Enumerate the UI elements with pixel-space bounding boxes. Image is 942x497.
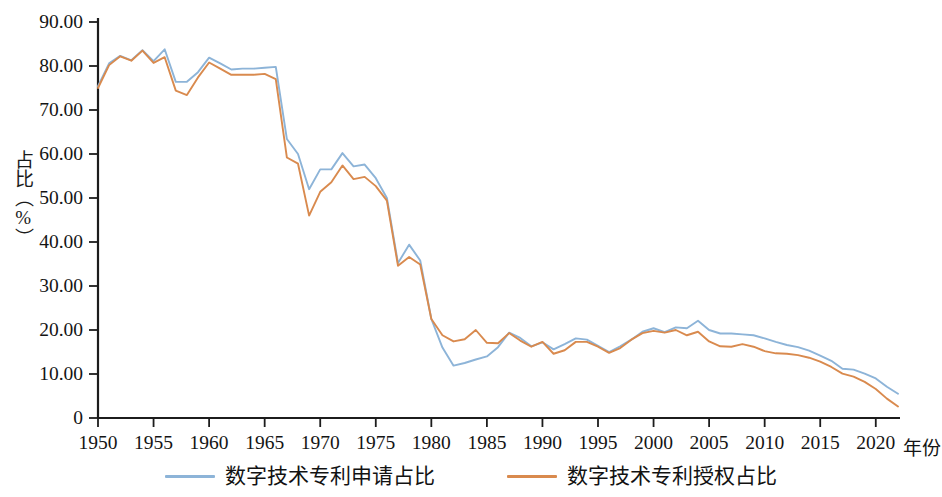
x-tick-label: 2000 bbox=[626, 433, 682, 453]
x-tick-label: 1995 bbox=[570, 433, 626, 453]
legend-item-2[interactable]: 数字技术专利授权占比 bbox=[507, 466, 777, 487]
y-tick-label: 50.00 bbox=[21, 188, 83, 208]
x-tick-label: 1950 bbox=[70, 433, 126, 453]
y-tick-label: 40.00 bbox=[21, 232, 83, 252]
x-tick-label: 1980 bbox=[403, 433, 459, 453]
series-group bbox=[98, 49, 898, 406]
x-axis-title: 年份 bbox=[903, 433, 941, 460]
y-tick-label: 10.00 bbox=[21, 364, 83, 384]
x-tick-label: 1990 bbox=[514, 433, 570, 453]
y-tick-label: 80.00 bbox=[21, 56, 83, 76]
x-tick-label: 2020 bbox=[848, 433, 904, 453]
legend-line-swatch bbox=[507, 475, 557, 478]
x-tick-label: 1985 bbox=[459, 433, 515, 453]
y-tick-label: 20.00 bbox=[21, 320, 83, 340]
x-tick-label: 2010 bbox=[737, 433, 793, 453]
x-tick-label: 1975 bbox=[348, 433, 404, 453]
legend-label: 数字技术专利授权占比 bbox=[567, 466, 777, 487]
legend-label: 数字技术专利申请占比 bbox=[225, 466, 435, 487]
x-tick-label: 1960 bbox=[181, 433, 237, 453]
y-tick-label: 90.00 bbox=[21, 12, 83, 32]
legend-item-1[interactable]: 数字技术专利申请占比 bbox=[165, 466, 435, 487]
y-tick-label: 60.00 bbox=[21, 144, 83, 164]
plot-area bbox=[0, 0, 942, 497]
x-tick-label: 2015 bbox=[792, 433, 848, 453]
series-line-2 bbox=[98, 51, 898, 407]
y-tick-label: 30.00 bbox=[21, 276, 83, 296]
y-tick-label: 0 bbox=[21, 408, 83, 428]
legend-line-swatch bbox=[165, 475, 215, 478]
x-tick-label: 1965 bbox=[237, 433, 293, 453]
x-tick-label: 2005 bbox=[681, 433, 737, 453]
axis-group bbox=[89, 18, 900, 427]
x-tick-label: 1970 bbox=[292, 433, 348, 453]
x-tick-label: 1955 bbox=[126, 433, 182, 453]
y-tick-label: 70.00 bbox=[21, 100, 83, 120]
chart-figure: 占比（%） 010.0020.0030.0040.0050.0060.0070.… bbox=[0, 0, 942, 497]
chart-legend: 数字技术专利申请占比数字技术专利授权占比 bbox=[0, 466, 942, 487]
